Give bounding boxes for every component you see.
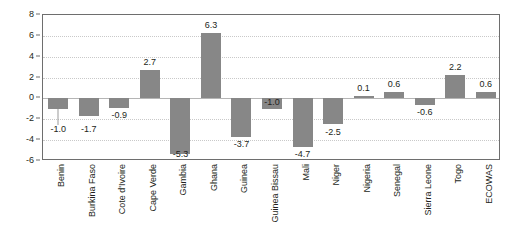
x-axis-tick-label: Sierra Leone: [424, 164, 433, 216]
y-axis-tick-label: 6: [29, 30, 34, 39]
bar-slot: 0.1: [348, 15, 379, 159]
x-axis-tick-label: Ghana: [210, 164, 219, 191]
bar-slot: 2.2: [440, 15, 471, 159]
y-axis-tick-mark: [36, 139, 40, 140]
bar[interactable]: [415, 98, 435, 104]
x-axis-tick: Sierra Leone: [408, 162, 439, 234]
bar[interactable]: [48, 98, 68, 108]
bar[interactable]: [170, 98, 190, 153]
y-axis-tick-mark: [36, 118, 40, 119]
x-axis-tick-label: Guinea Bissau: [271, 164, 280, 223]
bar-slot: 2.7: [135, 15, 166, 159]
bar-value-label: -2.5: [325, 128, 341, 137]
x-axis-tick: Ghana: [195, 162, 226, 234]
x-axis-tick-label: Mali: [302, 164, 311, 181]
y-axis-tick-label: -6: [26, 156, 34, 165]
x-axis-tick-label: Cote d'Ivoire: [118, 164, 127, 214]
x-axis-tick: Benin: [42, 162, 73, 234]
y-axis: 86420-2-4-6: [0, 14, 40, 160]
bar[interactable]: [79, 98, 99, 116]
x-axis-tick-label: Senegal: [393, 164, 402, 197]
y-axis-tick-label: 8: [29, 10, 34, 19]
bar[interactable]: [201, 33, 221, 99]
x-axis-tick: Senegal: [378, 162, 409, 234]
x-axis-tick: Niger: [317, 162, 348, 234]
y-axis-tick-mark: [36, 34, 40, 35]
y-axis-tick-mark: [36, 76, 40, 77]
bar[interactable]: [323, 98, 343, 124]
x-axis-tick-label: ECOWAS: [485, 164, 494, 204]
value-label-leader-line: [58, 109, 59, 125]
y-axis-tick-label: 0: [29, 93, 34, 102]
x-axis-tick-label: Togo: [454, 164, 463, 184]
bar-chart: 86420-2-4-6 -1.0-1.7-0.92.7-5.36.3-3.7-1…: [0, 0, 520, 234]
x-axis-tick: Togo: [439, 162, 470, 234]
bar-value-label: 2.2: [449, 63, 462, 72]
bar-value-label: 0.1: [357, 84, 370, 93]
x-axis-category-labels: BeninBurkina FasoCote d'IvoireCape Verde…: [42, 162, 500, 234]
bar-value-label: -1.0: [51, 125, 67, 134]
bar-slot: -1.0: [257, 15, 288, 159]
bar-slot: 6.3: [196, 15, 227, 159]
y-axis-tick-mark: [36, 160, 40, 161]
y-axis-tick-mark: [36, 97, 40, 98]
x-axis-tick: Mali: [286, 162, 317, 234]
y-axis-tick-label: 4: [29, 51, 34, 60]
x-axis-tick: Cape Verde: [134, 162, 165, 234]
x-axis-tick-label: Burkina Faso: [88, 164, 97, 217]
x-axis-tick: ECOWAS: [469, 162, 500, 234]
bar-value-label: -1.7: [81, 125, 97, 134]
bar[interactable]: [109, 98, 129, 107]
bar[interactable]: [140, 70, 160, 98]
bar[interactable]: [231, 98, 251, 137]
bar-value-label: 2.7: [144, 58, 157, 67]
y-axis-tick-label: -2: [26, 114, 34, 123]
bar-value-label: -5.3: [173, 150, 189, 159]
bar-value-label: -0.9: [112, 111, 128, 120]
x-axis-tick-label: Guinea: [240, 164, 249, 193]
x-axis-tick-label: Cape Verde: [149, 164, 158, 212]
y-axis-tick-label: 2: [29, 72, 34, 81]
bar-slot: -5.3: [165, 15, 196, 159]
x-axis-tick: Guinea Bissau: [256, 162, 287, 234]
bar-value-label: -0.6: [417, 108, 433, 117]
bar-value-label: 6.3: [205, 21, 218, 30]
x-axis-tick: Gambia: [164, 162, 195, 234]
x-axis-tick: Nigeria: [347, 162, 378, 234]
bar-slot: -0.6: [409, 15, 440, 159]
bar-slot: -1.7: [74, 15, 105, 159]
bar-slot: 0.6: [470, 15, 501, 159]
bar-value-label: -3.7: [234, 140, 250, 149]
bar-slot: -0.9: [104, 15, 135, 159]
bar-value-label: -1.0: [264, 98, 280, 107]
bar[interactable]: [384, 92, 404, 98]
bar[interactable]: [445, 75, 465, 98]
bar-slot: -2.5: [318, 15, 349, 159]
x-axis-tick: Burkina Faso: [73, 162, 104, 234]
plot-area: -1.0-1.7-0.92.7-5.36.3-3.7-1.0-4.7-2.50.…: [42, 14, 500, 160]
x-axis-tick: Cote d'Ivoire: [103, 162, 134, 234]
bar[interactable]: [476, 92, 496, 98]
x-axis-tick-label: Nigeria: [363, 164, 372, 193]
bar-value-label: 0.6: [479, 80, 492, 89]
x-axis-tick-label: Niger: [332, 164, 341, 186]
bar-slot: -3.7: [226, 15, 257, 159]
x-axis-tick-label: Gambia: [179, 164, 188, 196]
bar[interactable]: [293, 98, 313, 147]
y-axis-tick-mark: [36, 55, 40, 56]
bar[interactable]: [354, 96, 374, 98]
y-axis-tick-label: -4: [26, 135, 34, 144]
x-axis-tick-label: Benin: [57, 164, 66, 187]
x-axis-tick: Guinea: [225, 162, 256, 234]
y-axis-tick-mark: [36, 14, 40, 15]
bar-slot: -4.7: [287, 15, 318, 159]
bar-value-label: 0.6: [388, 80, 401, 89]
bar-slot: 0.6: [379, 15, 410, 159]
bar-slot: -1.0: [43, 15, 74, 159]
bar-value-label: -4.7: [295, 150, 311, 159]
